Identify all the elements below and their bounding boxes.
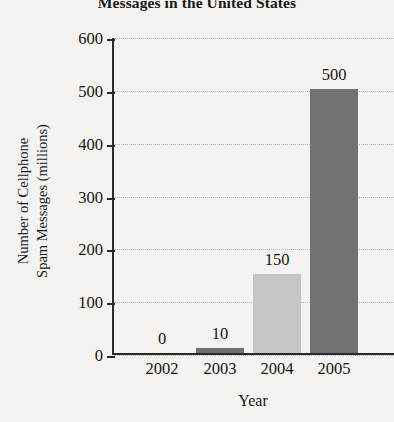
plot-area: 0 100 200 300 400 500 600 0 2002 xyxy=(112,38,382,355)
y-tick-mark-600 xyxy=(107,39,115,41)
bar-value-2005: 500 xyxy=(322,65,347,85)
y-tick-mark-200 xyxy=(107,250,115,252)
bar-2003[interactable]: 10 2003 xyxy=(196,348,244,353)
bar-value-2002: 0 xyxy=(158,329,166,349)
y-tick-mark-500 xyxy=(107,92,115,94)
y-tick-label-500: 500 xyxy=(78,82,103,102)
gridline-600: 600 xyxy=(114,38,394,39)
x-tick-label-2003: 2003 xyxy=(204,359,237,379)
y-axis-title-line-1: Number of Cellphone xyxy=(14,76,33,326)
y-tick-label-300: 300 xyxy=(78,188,103,208)
y-tick-label-400: 400 xyxy=(78,135,103,155)
x-tick-label-2002: 2002 xyxy=(146,359,179,379)
bar-2004[interactable]: 150 2004 xyxy=(253,274,301,353)
bar-value-2003: 10 xyxy=(212,324,229,344)
x-tick-label-2005: 2005 xyxy=(318,359,351,379)
y-axis-title: Number of Cellphone Spam Messages (milli… xyxy=(14,76,52,326)
y-tick-mark-0 xyxy=(107,356,115,358)
y-tick-label-600: 600 xyxy=(78,29,103,49)
y-tick-mark-300 xyxy=(107,198,115,200)
y-tick-mark-100 xyxy=(107,303,115,305)
gridline-0: 0 xyxy=(114,355,394,356)
bar-2005[interactable]: 500 2005 xyxy=(310,89,358,353)
x-axis-title: Year xyxy=(112,392,394,410)
y-tick-mark-400 xyxy=(107,145,115,147)
y-tick-label-0: 0 xyxy=(95,346,103,366)
y-axis-title-line-2: Spam Messages (millions) xyxy=(33,76,52,326)
y-tick-label-100: 100 xyxy=(78,293,103,313)
x-tick-label-2004: 2004 xyxy=(261,359,294,379)
bar-chart-figure: Messages in the United States Number of … xyxy=(0,0,394,422)
chart-title: Messages in the United States xyxy=(0,0,394,12)
y-tick-label-200: 200 xyxy=(78,240,103,260)
bar-value-2004: 150 xyxy=(265,250,290,270)
